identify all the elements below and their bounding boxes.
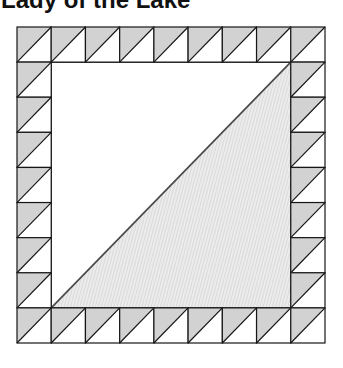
hst-unit: [222, 27, 256, 62]
hst-unit: [154, 308, 188, 343]
hst-unit: [291, 167, 325, 202]
hst-unit: [291, 62, 325, 97]
hst-unit: [257, 308, 291, 343]
hst-unit: [188, 308, 222, 343]
hst-unit: [188, 27, 222, 62]
hst-unit: [17, 203, 51, 238]
hst-unit: [85, 308, 119, 343]
hst-unit: [17, 97, 51, 132]
center-square: [51, 62, 291, 308]
hst-unit: [291, 132, 325, 167]
hst-unit: [51, 308, 85, 343]
hst-unit: [17, 273, 51, 308]
hst-unit: [257, 27, 291, 62]
hst-unit: [291, 203, 325, 238]
hst-unit: [120, 27, 154, 62]
hst-unit: [17, 238, 51, 273]
page: Lady of the Lake: [0, 0, 343, 368]
quilt-block-figure: [0, 0, 343, 368]
hst-unit: [291, 27, 325, 62]
hst-unit: [17, 132, 51, 167]
hst-unit: [17, 62, 51, 97]
hst-unit: [17, 27, 51, 62]
hst-unit: [291, 273, 325, 308]
hst-unit: [51, 27, 85, 62]
hst-unit: [222, 308, 256, 343]
hst-unit: [120, 308, 154, 343]
hst-unit: [17, 167, 51, 202]
hst-unit: [291, 238, 325, 273]
hst-unit: [291, 97, 325, 132]
hst-unit: [85, 27, 119, 62]
hst-unit: [154, 27, 188, 62]
hst-unit: [291, 308, 325, 343]
hst-unit: [17, 308, 51, 343]
